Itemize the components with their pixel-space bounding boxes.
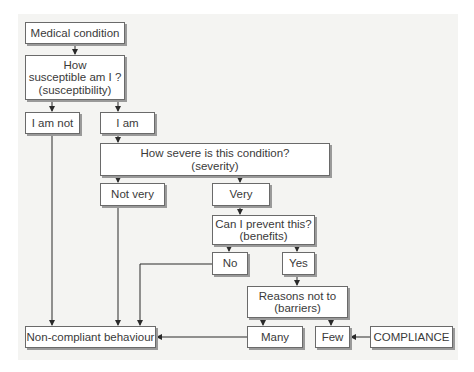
- node-barriers-question: Reasons not to (barriers): [247, 286, 348, 318]
- node-yes: Yes: [282, 252, 315, 275]
- node-label-line1: Can I prevent this?: [215, 218, 312, 231]
- node-label-line1: How severe is this condition?: [141, 147, 290, 160]
- node-compliance: COMPLIANCE: [370, 326, 453, 348]
- node-many: Many: [247, 326, 303, 348]
- node-i-am-not: I am not: [25, 112, 80, 134]
- node-very: Very: [212, 183, 270, 206]
- node-no: No: [212, 252, 248, 275]
- node-benefits-question: Can I prevent this? (benefits): [212, 215, 315, 245]
- node-label: Few: [322, 331, 344, 344]
- node-non-compliant-behaviour: Non-compliant behaviour: [25, 326, 156, 348]
- node-label-line1: How: [63, 59, 86, 72]
- node-label-line2: (severity): [191, 160, 238, 173]
- node-label: I am: [116, 117, 138, 130]
- node-label-line2: (benefits): [240, 230, 288, 243]
- node-label-line2: (barriers): [274, 302, 321, 315]
- node-susceptibility-question: How susceptible am I ? (susceptibility): [25, 55, 125, 100]
- node-medical-condition: Medical condition: [25, 22, 125, 44]
- node-label: Very: [229, 188, 252, 201]
- node-label: I am not: [32, 117, 74, 130]
- node-label: Many: [261, 331, 289, 344]
- node-label-line3: (susceptibility): [39, 84, 112, 97]
- node-label-line2: susceptible am I ?: [29, 71, 122, 84]
- node-not-very: Not very: [100, 183, 165, 206]
- node-i-am: I am: [100, 112, 155, 134]
- node-label: No: [223, 257, 238, 270]
- node-few: Few: [315, 326, 350, 348]
- node-severity-question: How severe is this condition? (severity): [100, 143, 330, 176]
- node-label: Yes: [289, 257, 308, 270]
- node-label: Medical condition: [31, 27, 120, 40]
- node-label: COMPLIANCE: [373, 331, 449, 344]
- node-label: Not very: [111, 188, 154, 201]
- node-label: Non-compliant behaviour: [27, 331, 155, 344]
- node-label-line1: Reasons not to: [259, 290, 336, 303]
